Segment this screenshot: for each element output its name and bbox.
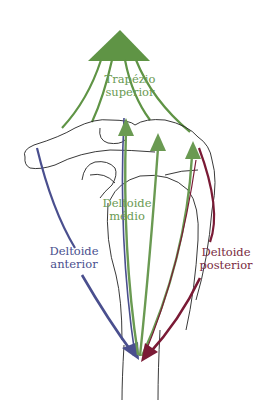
label-deltoide-medio: Deltoide médio bbox=[97, 197, 157, 223]
label-line: médio bbox=[97, 210, 157, 223]
label-deltoide-posterior: Deltoide posterior bbox=[190, 246, 262, 272]
label-line: superior bbox=[95, 86, 165, 99]
label-trapezio-superior: Trapézio superior bbox=[95, 73, 165, 99]
label-line: posterior bbox=[190, 259, 262, 272]
label-deltoide-anterior: Deltoide anterior bbox=[38, 245, 110, 271]
deltoide-anterior-arrow bbox=[37, 118, 139, 360]
label-line: anterior bbox=[38, 258, 110, 271]
